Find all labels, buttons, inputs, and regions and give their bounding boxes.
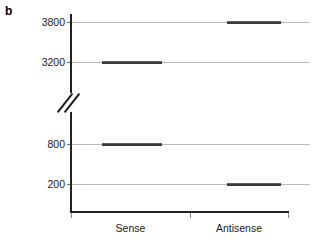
band-sense-800 xyxy=(102,143,162,146)
xtick-mark-right xyxy=(288,213,289,218)
ytick-label-800-wrap: 800 xyxy=(17,139,65,149)
ytick-label-3200-wrap: 3200 xyxy=(17,57,65,67)
xaxis-label-sense: Sense xyxy=(71,222,190,234)
figure-panel-b: b 3800 3200 800 200 Sense Antisense xyxy=(0,0,322,239)
ytick-label-200-wrap: 200 xyxy=(17,179,65,189)
xtick-mark-middle xyxy=(190,213,191,218)
ytick-label-800: 800 xyxy=(21,139,65,149)
band-antisense-200 xyxy=(227,183,281,186)
x-axis-line xyxy=(70,211,289,213)
ytick-label-200: 200 xyxy=(21,179,65,189)
xaxis-label-antisense: Antisense xyxy=(190,222,288,234)
band-sense-3200 xyxy=(102,61,162,64)
ytick-label-3800-wrap: 3800 xyxy=(17,17,65,27)
y-axis-line xyxy=(70,14,72,213)
panel-label: b xyxy=(5,4,12,18)
band-antisense-3800 xyxy=(227,21,281,24)
xtick-mark-left xyxy=(71,213,72,218)
ytick-label-3200: 3200 xyxy=(21,57,65,67)
ytick-label-3800: 3800 xyxy=(21,17,65,27)
